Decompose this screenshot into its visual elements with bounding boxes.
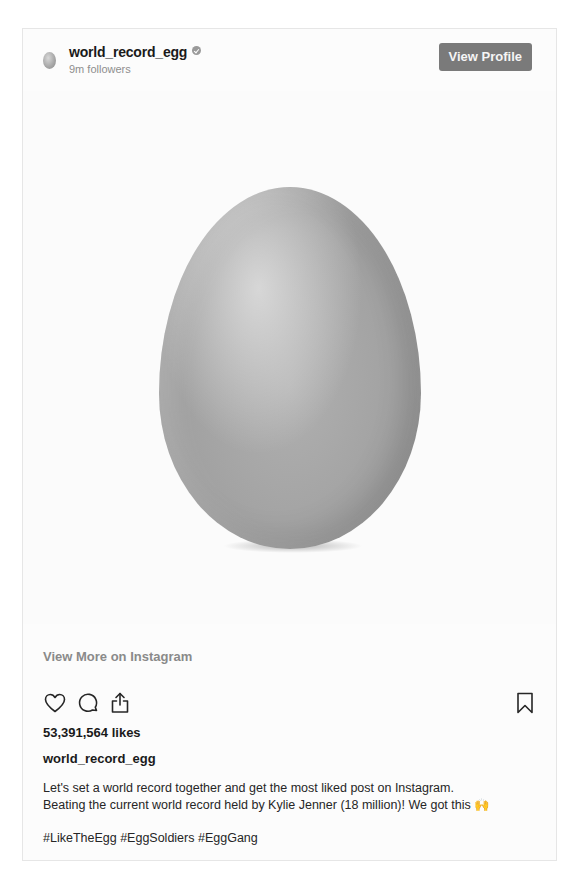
- post-image[interactable]: [23, 91, 556, 624]
- username[interactable]: world_record_egg: [69, 44, 201, 60]
- heart-icon[interactable]: [43, 691, 67, 715]
- share-icon[interactable]: [108, 691, 132, 715]
- bookmark-icon[interactable]: [513, 691, 537, 715]
- caption-line-2: Beating the current world record held by…: [43, 797, 543, 814]
- caption-line-2-text: Beating the current world record held by…: [43, 798, 471, 812]
- comment-bubble-icon[interactable]: [76, 691, 100, 715]
- view-more-link[interactable]: View More on Instagram: [43, 649, 192, 664]
- instagram-embed-card: world_record_egg 9m followers View Profi…: [22, 28, 557, 861]
- hashtags[interactable]: #LikeTheEgg #EggSoldiers #EggGang: [43, 831, 258, 845]
- egg-image: [159, 187, 421, 549]
- caption-username[interactable]: world_record_egg: [43, 751, 156, 766]
- follower-count: 9m followers: [69, 63, 131, 75]
- action-bar: [23, 691, 556, 717]
- avatar[interactable]: [43, 52, 56, 69]
- caption-text: Let's set a world record together and ge…: [43, 780, 543, 814]
- raised-hands-emoji-icon: 🙌: [474, 798, 490, 812]
- username-text[interactable]: world_record_egg: [69, 44, 187, 60]
- view-profile-button[interactable]: View Profile: [439, 43, 532, 71]
- like-count: 53,391,564 likes: [43, 725, 141, 740]
- verified-badge-icon: [192, 46, 201, 55]
- post-header: world_record_egg 9m followers View Profi…: [23, 29, 556, 79]
- caption-line-1: Let's set a world record together and ge…: [43, 780, 543, 797]
